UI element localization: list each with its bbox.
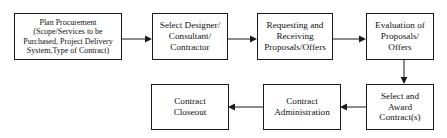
arrow-select-award-to-administration — [340, 99, 367, 115]
flow-node-plan-procurement[interactable]: Plan Procurement (Scope/Services to be P… — [14, 13, 122, 60]
flow-node-requesting-receiving[interactable]: Requesting and Receiving Proposals/Offer… — [257, 13, 333, 60]
flow-node-contract-administration[interactable]: Contract Administration — [263, 84, 341, 130]
flowchart-diagram: Plan Procurement (Scope/Services to be P… — [0, 0, 447, 138]
flow-node-select-designer[interactable]: Select Designer/ Consultant/ Contractor — [152, 13, 228, 60]
arrow-evaluation-to-select-award — [396, 60, 412, 85]
arrow-requesting-to-evaluation — [333, 31, 367, 47]
flow-node-evaluation-proposals[interactable]: Evaluation of Proposals/ Offers — [366, 13, 434, 60]
arrow-plan-to-select-designer — [122, 31, 153, 47]
flow-node-select-award[interactable]: Select and Award Contract(s) — [366, 84, 434, 130]
arrow-administration-to-closeout — [228, 99, 264, 115]
flow-node-contract-closeout[interactable]: Contract Closeout — [151, 84, 229, 130]
arrow-select-designer-to-requesting — [228, 31, 258, 47]
